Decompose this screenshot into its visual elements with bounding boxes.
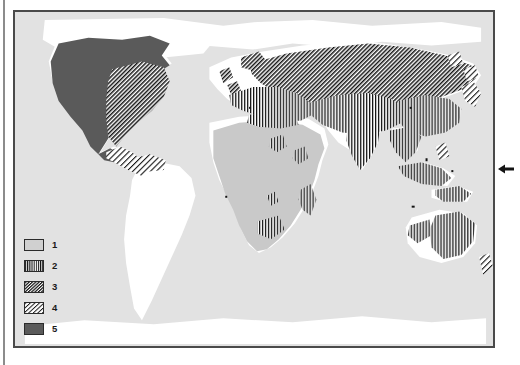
legend-item-3: 3	[24, 276, 84, 297]
world-map-canvas	[15, 12, 493, 346]
legend-label-2: 2	[52, 261, 57, 271]
legend-item-5: 5	[24, 318, 84, 339]
legend-swatch-5	[24, 323, 44, 335]
legend-label-3: 3	[52, 282, 57, 292]
distribution-map-figure: 1 2	[13, 10, 495, 348]
legend-item-2: 2	[24, 255, 84, 276]
page-gutter-line	[3, 0, 5, 365]
legend-label-1: 1	[52, 240, 57, 250]
legend-label-5: 5	[52, 324, 57, 334]
legend-swatch-2	[24, 260, 44, 272]
legend-label-4: 4	[52, 303, 57, 313]
legend-swatch-1	[24, 239, 44, 251]
map-legend: 1 2	[24, 234, 84, 339]
legend-item-1: 1	[24, 234, 84, 255]
legend-item-4: 4	[24, 297, 84, 318]
legend-swatch-4	[24, 302, 44, 314]
legend-swatch-3	[24, 281, 44, 293]
left-arrow-icon	[498, 163, 514, 175]
